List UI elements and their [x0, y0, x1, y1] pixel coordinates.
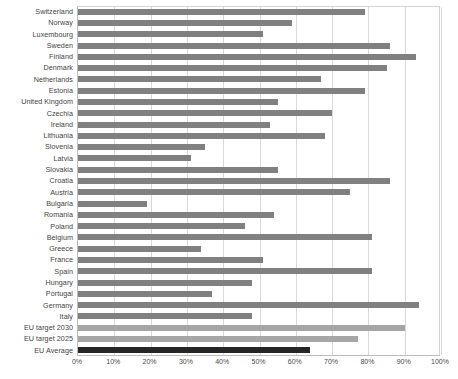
bar-row: Portugal [0, 288, 458, 299]
category-label: Czechia [0, 108, 73, 119]
bar [78, 347, 310, 353]
bar [78, 291, 212, 297]
bar [78, 223, 245, 229]
bar-row: Norway [0, 17, 458, 28]
bar-row: Lithuania [0, 130, 458, 141]
category-label: Finland [0, 51, 73, 62]
category-label: Switzerland [0, 6, 73, 17]
category-label: United Kingdom [0, 96, 73, 107]
bar-row: Spain [0, 266, 458, 277]
category-label: Belgium [0, 232, 73, 243]
bar-row: Austria [0, 187, 458, 198]
x-tick-label: 60% [288, 358, 302, 365]
bar-row: EU Average [0, 345, 458, 356]
x-tick-label: 40% [215, 358, 229, 365]
category-label: Romania [0, 209, 73, 220]
bar [78, 76, 321, 82]
category-label: Spain [0, 266, 73, 277]
category-label: Estonia [0, 85, 73, 96]
category-label: Portugal [0, 288, 73, 299]
category-label: France [0, 254, 73, 265]
category-label: Ireland [0, 119, 73, 130]
category-label: Hungary [0, 277, 73, 288]
bar-row: Finland [0, 51, 458, 62]
x-tick-label: 20% [143, 358, 157, 365]
category-label: Luxembourg [0, 29, 73, 40]
bar-row: Greece [0, 243, 458, 254]
bar-row: Germany [0, 300, 458, 311]
bar [78, 325, 405, 331]
category-label: Croatia [0, 175, 73, 186]
bar [78, 313, 252, 319]
bar-row: Latvia [0, 153, 458, 164]
category-label: Latvia [0, 153, 73, 164]
x-tick-label: 100% [431, 358, 449, 365]
category-label: Greece [0, 243, 73, 254]
x-tick-label: 50% [251, 358, 265, 365]
bar [78, 234, 372, 240]
bar-row: Czechia [0, 108, 458, 119]
bar [78, 133, 325, 139]
bar [78, 99, 278, 105]
category-label: EU Average [0, 345, 73, 356]
category-label: Italy [0, 311, 73, 322]
bar [78, 155, 191, 161]
bar-row: Croatia [0, 175, 458, 186]
bar-row: Poland [0, 221, 458, 232]
bar-row: EU target 2025 [0, 333, 458, 344]
bar-row: Ireland [0, 119, 458, 130]
bar-row: Sweden [0, 40, 458, 51]
x-tick-label: 70% [324, 358, 338, 365]
category-label: Poland [0, 221, 73, 232]
category-label: Denmark [0, 62, 73, 73]
category-label: EU target 2025 [0, 333, 73, 344]
bar [78, 54, 416, 60]
bar [78, 280, 252, 286]
bar-row: Luxembourg [0, 29, 458, 40]
bar [78, 110, 332, 116]
x-tick-label: 90% [397, 358, 411, 365]
category-label: Sweden [0, 40, 73, 51]
category-label: Netherlands [0, 74, 73, 85]
bar [78, 31, 263, 37]
bar [78, 246, 201, 252]
x-tick-label: 80% [360, 358, 374, 365]
bar-row: Bulgaria [0, 198, 458, 209]
category-label: Lithuania [0, 130, 73, 141]
bar-row: Slovenia [0, 141, 458, 152]
category-label: Norway [0, 17, 73, 28]
bar-row: Netherlands [0, 74, 458, 85]
category-label: Slovenia [0, 141, 73, 152]
bar-row: United Kingdom [0, 96, 458, 107]
bar [78, 336, 358, 342]
bar-row: Switzerland [0, 6, 458, 17]
bar-chart: SwitzerlandNorwayLuxembourgSwedenFinland… [0, 0, 458, 379]
x-axis: 0%10%20%30%40%50%60%70%80%90%100% [0, 358, 458, 372]
bar [78, 144, 205, 150]
bar [78, 43, 390, 49]
bar-rows: SwitzerlandNorwayLuxembourgSwedenFinland… [0, 6, 458, 356]
bar [78, 302, 419, 308]
bar-row: France [0, 254, 458, 265]
category-label: EU target 2030 [0, 322, 73, 333]
bar-row: Slovakia [0, 164, 458, 175]
bar-row: Belgium [0, 232, 458, 243]
bar [78, 201, 147, 207]
bar [78, 88, 365, 94]
bar [78, 257, 263, 263]
category-label: Austria [0, 187, 73, 198]
bar [78, 9, 365, 15]
bar [78, 212, 274, 218]
bar [78, 178, 390, 184]
bar [78, 167, 278, 173]
bar-row: Estonia [0, 85, 458, 96]
bar [78, 122, 270, 128]
bar [78, 268, 372, 274]
bar-row: EU target 2030 [0, 322, 458, 333]
bar [78, 189, 350, 195]
bar-row: Hungary [0, 277, 458, 288]
bar-row: Italy [0, 311, 458, 322]
bar [78, 20, 292, 26]
bar [78, 65, 387, 71]
category-label: Bulgaria [0, 198, 73, 209]
